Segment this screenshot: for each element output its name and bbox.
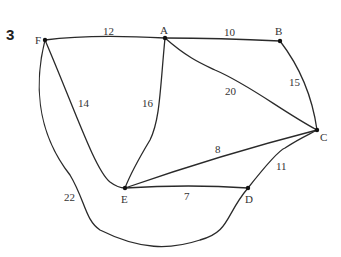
edge-weight-b-c: 15: [289, 76, 301, 88]
edge-weight-f-d: 22: [64, 191, 75, 203]
edge-weight-a-c: 20: [225, 85, 237, 97]
edge-weight-d-c: 11: [276, 160, 287, 172]
edge-weight-e-c: 8: [215, 143, 221, 155]
node-d: [246, 186, 250, 190]
edge-a-b: [165, 38, 280, 41]
node-b: [278, 39, 282, 43]
node-label-e: E: [121, 193, 128, 205]
node-c: [315, 128, 319, 132]
node-f: [43, 38, 47, 42]
edge-a-e: [125, 38, 165, 188]
edge-weight-f-e: 14: [78, 97, 90, 109]
node-label-c: C: [320, 131, 327, 143]
node-label-f: F: [35, 34, 41, 46]
weighted-graph-diagram: F A B C D E 12 10 15 20 14 16 8 7 11 22: [0, 0, 341, 257]
edge-weight-e-d: 7: [184, 190, 190, 202]
node-label-a: A: [160, 24, 168, 36]
node-e: [123, 186, 127, 190]
edge-e-c: [125, 130, 317, 188]
node-label-b: B: [275, 25, 282, 37]
node-label-d: D: [245, 193, 253, 205]
edge-weight-a-b: 10: [224, 26, 236, 38]
edge-f-e: [45, 40, 125, 188]
edge-weight-f-a: 12: [103, 25, 114, 37]
edge-e-d: [125, 186, 248, 188]
node-a: [163, 36, 167, 40]
edge-weight-a-e: 16: [142, 97, 154, 109]
